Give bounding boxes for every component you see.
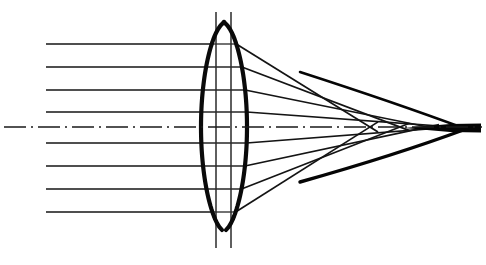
optics-figure-spherical-aberration	[0, 0, 486, 265]
figure-canvas	[0, 0, 486, 265]
figure-background	[0, 0, 486, 265]
